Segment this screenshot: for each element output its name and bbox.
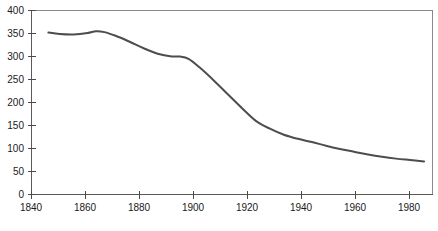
y-tick-label: 100	[7, 143, 24, 154]
x-tick-1960: 1960	[344, 191, 367, 214]
y-tick-label: 150	[7, 120, 24, 131]
x-tick-1880: 1880	[128, 191, 151, 214]
x-tick-label: 1900	[182, 202, 205, 213]
y-tick-label: 250	[7, 74, 24, 85]
line-chart: 0 50 100 150 200 250	[0, 0, 438, 231]
data-line-series-1	[48, 31, 424, 161]
plot-frame	[32, 11, 433, 195]
x-tick-label: 1960	[344, 202, 367, 213]
x-tick-label: 1880	[128, 202, 151, 213]
x-tick-label: 1840	[20, 202, 43, 213]
x-tick-1980: 1980	[398, 191, 421, 214]
y-tick-label: 300	[7, 51, 24, 62]
y-tick-label: 200	[7, 97, 24, 108]
y-tick-label: 50	[13, 166, 25, 177]
x-tick-1900: 1900	[182, 191, 205, 214]
x-tick-label: 1920	[236, 202, 259, 213]
x-tick-1940: 1940	[290, 191, 313, 214]
y-tick-label: 400	[7, 5, 24, 16]
y-tick-50: 50	[13, 166, 36, 177]
y-tick-label: 0	[18, 189, 24, 200]
y-tick-label: 350	[7, 28, 24, 39]
x-tick-1860: 1860	[74, 191, 97, 214]
x-tick-group: 1840 1860 1880 1900 1920 1940	[20, 191, 421, 214]
x-tick-label: 1860	[74, 202, 97, 213]
x-tick-1920: 1920	[236, 191, 259, 214]
chart-container: 0 50 100 150 200 250	[0, 0, 438, 231]
x-tick-label: 1980	[398, 202, 421, 213]
y-tick-0: 0	[18, 189, 35, 200]
x-tick-label: 1940	[290, 202, 313, 213]
